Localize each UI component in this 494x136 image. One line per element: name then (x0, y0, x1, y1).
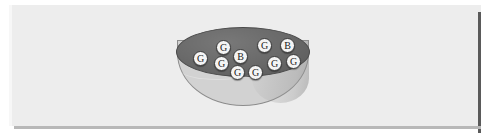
ball-label: G (234, 67, 241, 77)
ball: G (286, 54, 301, 69)
ball-label: G (252, 67, 259, 77)
ball-label: B (237, 51, 244, 61)
ball: G (248, 65, 263, 80)
ball-label: G (197, 53, 204, 63)
ball: G (193, 51, 208, 66)
ball-label: G (220, 42, 227, 52)
ball: G (230, 65, 245, 80)
panel-right-shadow (478, 12, 481, 133)
ball-label: G (271, 58, 278, 68)
ball-label: G (290, 56, 297, 66)
bowl: GGBGBGGGGG (176, 27, 310, 107)
ball-label: B (284, 40, 291, 50)
ball: G (257, 38, 272, 53)
ball: B (280, 38, 295, 53)
ball-label: G (261, 40, 268, 50)
ball: G (214, 56, 229, 71)
ball-label: G (218, 58, 225, 68)
ball: G (267, 56, 282, 71)
panel-left-highlight (9, 5, 12, 126)
illustration-canvas: GGBGBGGGGG (0, 0, 494, 136)
panel-bottom-shadow (14, 126, 481, 129)
ball: G (216, 40, 231, 55)
ball: B (233, 49, 248, 64)
